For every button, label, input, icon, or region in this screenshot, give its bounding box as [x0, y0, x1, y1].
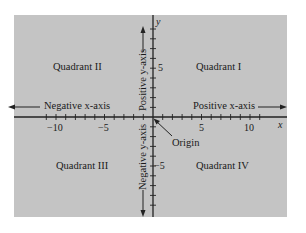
negative-x-axis-label: Negative x-axis	[44, 101, 110, 112]
quadrant-4-label: Quadrant IV	[196, 161, 249, 172]
x-tick-neg5: −5	[98, 123, 109, 133]
x-tick-pos10: 10	[244, 123, 254, 133]
y-tick-pos5: 5	[158, 63, 163, 73]
positive-y-axis-label: Positive y-axis	[138, 49, 149, 111]
origin-pointer-icon	[154, 119, 173, 137]
coordinate-axes	[0, 0, 306, 233]
arrow-negative-y-icon	[141, 190, 146, 217]
origin-label: Origin	[172, 138, 199, 149]
positive-x-axis-label: Positive x-axis	[193, 101, 255, 112]
negative-y-axis-label: Negative y-axis	[138, 124, 149, 190]
quadrant-3-label: Quadrant III	[56, 161, 108, 172]
arrow-positive-x-icon	[258, 105, 287, 110]
y-tick-neg5: −5	[154, 161, 165, 171]
x-axis-variable: x	[278, 120, 282, 130]
x-tick-neg10: −10	[47, 123, 63, 133]
arrow-negative-x-icon	[8, 105, 40, 110]
y-axis-variable: y	[156, 17, 160, 27]
x-tick-pos5: 5	[199, 123, 204, 133]
quadrant-1-label: Quadrant I	[196, 62, 241, 73]
quadrant-2-label: Quadrant II	[53, 62, 102, 73]
